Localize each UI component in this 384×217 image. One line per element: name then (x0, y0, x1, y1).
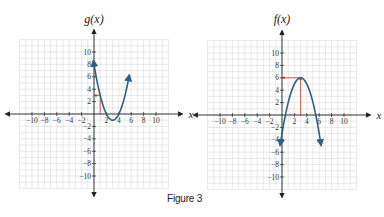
x-axis-label: x (375, 109, 381, 121)
x-tick-label: −8 (228, 117, 236, 126)
y-tick-label: 4 (275, 86, 279, 95)
x-tick-label: −4 (253, 117, 261, 126)
x-tick-label: 8 (330, 117, 334, 126)
y-tick-label: 6 (87, 72, 91, 81)
x-tick-label: 4 (305, 117, 309, 126)
y-tick-label: −10 (267, 173, 279, 182)
x-tick-label: −4 (65, 116, 73, 125)
y-tick-label: −10 (79, 172, 91, 181)
x-tick-label: −10 (26, 116, 38, 125)
figure-caption: Figure 3 (167, 193, 202, 204)
y-tick-label: 4 (87, 85, 91, 94)
y-tick-label: −6 (83, 147, 91, 156)
y-tick-label: −4 (83, 134, 91, 143)
y-tick-label: 8 (275, 61, 279, 70)
y-tick-label: 2 (87, 97, 91, 106)
chart-title: f(x) (274, 12, 291, 26)
x-tick-label: 10 (340, 117, 348, 126)
x-tick-label: 10 (152, 116, 160, 125)
y-tick-label: −6 (271, 148, 279, 157)
y-tick-label: 8 (87, 60, 91, 69)
chart-title: g(x) (84, 12, 103, 26)
x-axis-label: x (187, 108, 193, 120)
chart-g-of-x: −10−8−6−4−2246810−10−8−6−4−2246810g(x)x (6, 12, 194, 196)
y-tick-label: −2 (83, 122, 91, 131)
x-tick-label: −10 (214, 117, 226, 126)
y-tick-label: 6 (275, 73, 279, 82)
y-tick-label: 10 (84, 48, 92, 57)
figure-3: −10−8−6−4−2246810−10−8−6−4−2246810g(x)x … (0, 0, 384, 217)
x-tick-label: 6 (129, 116, 133, 125)
chart-f-of-x: −10−8−6−4−2246810−10−8−6−4−2246810f(x)x (194, 12, 382, 197)
y-tick-label: −8 (271, 160, 279, 169)
x-tick-label: 8 (142, 116, 146, 125)
y-tick-label: −8 (83, 159, 91, 168)
parabola-curve (93, 61, 129, 121)
x-tick-label: 2 (293, 117, 297, 126)
y-tick-label: −4 (271, 135, 279, 144)
x-tick-label: −6 (53, 116, 61, 125)
y-tick-label: −2 (271, 123, 279, 132)
y-tick-label: 2 (275, 98, 279, 107)
x-tick-label: −8 (40, 116, 48, 125)
x-tick-label: −6 (241, 117, 249, 126)
y-tick-label: 10 (272, 49, 280, 58)
